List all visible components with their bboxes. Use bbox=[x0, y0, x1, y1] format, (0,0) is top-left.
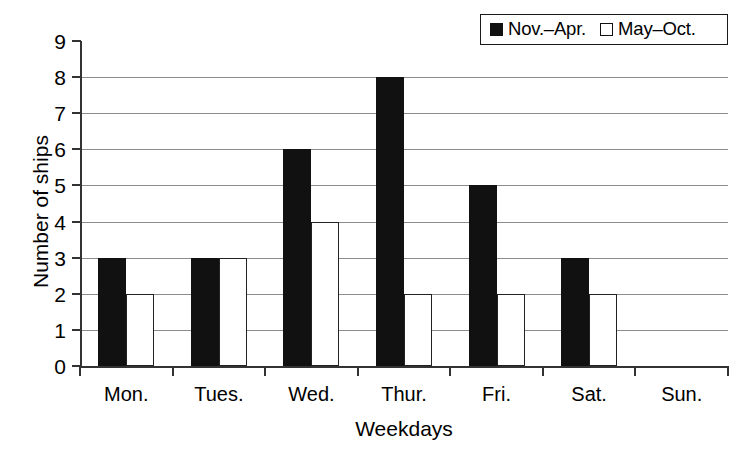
bar bbox=[376, 77, 404, 366]
bar bbox=[126, 294, 154, 366]
x-axis-tick bbox=[264, 366, 266, 376]
x-axis-tick bbox=[79, 366, 81, 376]
bar bbox=[497, 294, 525, 366]
bar bbox=[404, 294, 432, 366]
gridline bbox=[80, 222, 728, 223]
legend-label-may-oct: May–Oct. bbox=[618, 20, 696, 39]
x-axis-line bbox=[80, 366, 728, 368]
legend-label-nov-apr: Nov.–Apr. bbox=[508, 20, 586, 39]
x-axis-tick-label: Sun. bbox=[661, 384, 702, 404]
x-axis-tick bbox=[172, 366, 174, 376]
y-axis-tick-label: 9 bbox=[24, 31, 66, 52]
x-axis-tick-label: Fri. bbox=[482, 384, 511, 404]
y-axis-line bbox=[80, 41, 82, 366]
gridline bbox=[80, 258, 728, 259]
bar bbox=[469, 185, 497, 366]
x-axis-tick bbox=[634, 366, 636, 376]
x-axis-tick-label: Wed. bbox=[288, 384, 334, 404]
x-axis-title: Weekdays bbox=[80, 418, 728, 439]
bar bbox=[191, 258, 219, 366]
x-axis-tick-label: Mon. bbox=[104, 384, 148, 404]
x-axis-tick-label: Tues. bbox=[194, 384, 243, 404]
y-axis-tick-label: 0 bbox=[24, 356, 66, 377]
x-axis-tick-label: Thur. bbox=[381, 384, 427, 404]
legend-entry-nov-apr: Nov.–Apr. bbox=[490, 20, 586, 39]
y-axis-tick-label: 8 bbox=[24, 67, 66, 88]
gridline bbox=[80, 185, 728, 186]
y-axis-title: Number of ships bbox=[30, 135, 51, 288]
gridline bbox=[80, 149, 728, 150]
legend-entry-may-oct: May–Oct. bbox=[600, 20, 696, 39]
x-axis-tick bbox=[449, 366, 451, 376]
gridline bbox=[80, 113, 728, 114]
x-axis-tick bbox=[357, 366, 359, 376]
legend-swatch-hollow-icon bbox=[600, 23, 613, 36]
bar bbox=[589, 294, 617, 366]
y-axis-tick-label: 7 bbox=[24, 103, 66, 124]
gridline bbox=[80, 77, 728, 78]
x-axis-tick-label: Sat. bbox=[571, 384, 607, 404]
plot-area: 0123456789Mon.Tues.Wed.Thur.Fri.Sat.Sun. bbox=[80, 41, 728, 366]
bar bbox=[219, 258, 247, 366]
x-axis-tick bbox=[727, 366, 729, 376]
x-axis-tick bbox=[542, 366, 544, 376]
bar bbox=[311, 222, 339, 366]
bar bbox=[561, 258, 589, 366]
y-axis-tick-label: 1 bbox=[24, 319, 66, 340]
bar bbox=[283, 149, 311, 366]
chart-page: Nov.–Apr. May–Oct. 0123456789Mon.Tues.We… bbox=[0, 0, 744, 453]
bar bbox=[98, 258, 126, 366]
legend-swatch-filled-icon bbox=[490, 23, 503, 36]
